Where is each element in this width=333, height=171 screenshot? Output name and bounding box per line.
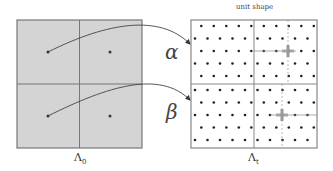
- lattice-point: [194, 114, 197, 117]
- lattice-point: [288, 101, 291, 104]
- lattice-point: [256, 114, 259, 117]
- lattice-point: [194, 37, 197, 40]
- lattice-point: [313, 50, 316, 53]
- lattice-point: [200, 75, 203, 78]
- lattice-point: [231, 89, 234, 92]
- lattice-point: [294, 89, 297, 92]
- lattice-point: [300, 75, 303, 78]
- lattice-point: [275, 101, 278, 104]
- lambda-0-symbol: Λ: [74, 151, 82, 164]
- lattice-point: [200, 126, 203, 129]
- lattice-point: [219, 37, 222, 40]
- lattice-point: [219, 89, 222, 92]
- lattice-point: [256, 89, 259, 92]
- lattice-point: [306, 62, 309, 65]
- lattice-point: [306, 89, 309, 92]
- lattice-point: [313, 101, 316, 104]
- lattice-point: [269, 62, 272, 65]
- lambda-t-square: [191, 20, 317, 148]
- lattice-point: [200, 101, 203, 104]
- lattice-point: [219, 62, 222, 65]
- lattice-point: [263, 25, 266, 28]
- lattice-point: [313, 126, 316, 129]
- lattice-point: [263, 101, 266, 104]
- lattice-point: [250, 50, 253, 53]
- lattice-point: [194, 139, 197, 142]
- lattice-point: [194, 62, 197, 65]
- lattice-point: [206, 114, 209, 117]
- lattice-point: [206, 89, 209, 92]
- lattice-point: [238, 101, 241, 104]
- lattice-mapping-diagram: [0, 0, 333, 171]
- lattice-point: [244, 37, 247, 40]
- lattice-point: [250, 75, 253, 78]
- lattice-point: [294, 37, 297, 40]
- lattice-point: [256, 62, 259, 65]
- lambda-t-symbol: Λ: [248, 151, 256, 164]
- lattice-point: [306, 139, 309, 142]
- lattice-point: [231, 139, 234, 142]
- lattice-point: [238, 75, 241, 78]
- lattice-point: [306, 37, 309, 40]
- lattice-point: [213, 75, 216, 78]
- lattice-point: [281, 37, 284, 40]
- lattice-point: [206, 37, 209, 40]
- lambda-0-label: Λ0: [74, 151, 86, 166]
- lattice-point: [269, 89, 272, 92]
- lattice-point: [256, 37, 259, 40]
- lattice-point: [231, 114, 234, 117]
- lattice-point: [194, 89, 197, 92]
- lattice-point: [300, 126, 303, 129]
- lattice-point: [275, 25, 278, 28]
- lattice-point: [109, 115, 112, 118]
- lambda-t-subscript: t: [256, 158, 259, 166]
- lattice-point: [225, 126, 228, 129]
- lattice-point: [213, 126, 216, 129]
- lambda-t-label: Λt: [248, 151, 259, 166]
- lattice-point: [238, 25, 241, 28]
- lattice-point: [250, 25, 253, 28]
- lattice-point: [225, 50, 228, 53]
- lambda-0-subscript: 0: [82, 158, 86, 166]
- lattice-point: [281, 139, 284, 142]
- lattice-point: [225, 75, 228, 78]
- lattice-point: [294, 62, 297, 65]
- lattice-point: [244, 62, 247, 65]
- lattice-point: [225, 25, 228, 28]
- lattice-point: [263, 75, 266, 78]
- lattice-point: [219, 114, 222, 117]
- lattice-point: [231, 62, 234, 65]
- lattice-point: [313, 25, 316, 28]
- lattice-point: [231, 37, 234, 40]
- lattice-point: [275, 126, 278, 129]
- lattice-point: [238, 50, 241, 53]
- lattice-point: [238, 126, 241, 129]
- unit-shape-caption: unit shape: [236, 3, 273, 11]
- lattice-point: [244, 114, 247, 117]
- lattice-point: [244, 89, 247, 92]
- lattice-point: [213, 101, 216, 104]
- lattice-point: [256, 139, 259, 142]
- lattice-point: [206, 139, 209, 142]
- lattice-point: [263, 126, 266, 129]
- lattice-point: [206, 62, 209, 65]
- lattice-point: [288, 126, 291, 129]
- lambda-0-square: [17, 20, 142, 148]
- lattice-point: [250, 101, 253, 104]
- lattice-point: [200, 25, 203, 28]
- lattice-point: [294, 139, 297, 142]
- lattice-point: [250, 126, 253, 129]
- lattice-point: [300, 50, 303, 53]
- beta-label: β: [166, 100, 178, 124]
- alpha-label: α: [165, 40, 179, 64]
- lattice-point: [109, 51, 112, 54]
- lattice-point: [269, 37, 272, 40]
- lattice-point: [213, 25, 216, 28]
- lattice-point: [225, 101, 228, 104]
- lattice-point: [281, 62, 284, 65]
- lattice-point: [244, 139, 247, 142]
- lattice-point: [313, 75, 316, 78]
- lattice-point: [219, 139, 222, 142]
- lattice-point: [200, 50, 203, 53]
- lattice-point: [281, 89, 284, 92]
